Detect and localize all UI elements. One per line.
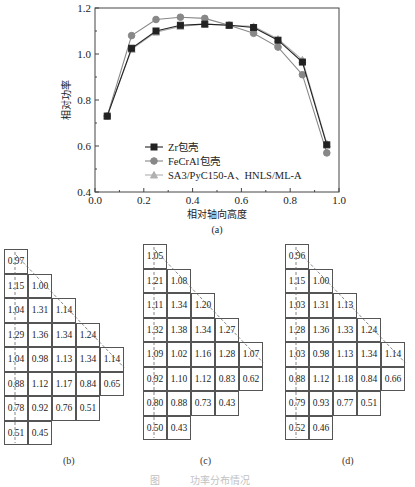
symmetry-lines: [143, 244, 273, 444]
square-marker-icon: [275, 37, 281, 43]
x-tick-label: 0.2: [137, 194, 151, 206]
y-tick-label: 0.8: [77, 94, 91, 106]
legend-label: SA3/PyC150-A、HNLS/ML-A: [168, 170, 302, 181]
square-marker-icon: [129, 45, 135, 51]
symmetry-lines: [285, 244, 415, 444]
figure-caption: 图 功率分布情况: [150, 472, 250, 487]
y-axis-label: 相对功率: [60, 80, 72, 120]
series-0: [104, 21, 330, 148]
y-tick-label: 1.2: [77, 2, 91, 14]
square-marker-icon: [299, 59, 305, 65]
panel-label-d: (d): [342, 455, 354, 466]
y-tick-label: 0.4: [77, 186, 91, 198]
x-tick-label: 0.6: [235, 194, 249, 206]
series-line: [107, 17, 327, 153]
circle-marker-icon: [128, 32, 135, 39]
square-marker-icon: [177, 22, 183, 28]
x-tick-label: 1.0: [332, 194, 346, 206]
line-chart: 0.00.20.40.60.81.00.40.60.81.01.2相对轴向高度相…: [0, 0, 415, 240]
legend-label: Zr包壳: [168, 141, 199, 153]
panel-label-c: (c): [200, 455, 211, 466]
panel-label-a: (a): [211, 224, 222, 236]
circle-marker-icon: [299, 71, 306, 78]
series-1: [104, 14, 330, 156]
series-2: [104, 21, 331, 147]
square-marker-icon: [104, 113, 110, 119]
square-marker-icon: [226, 22, 232, 28]
panel-label-b: (b): [63, 455, 75, 466]
circle-marker-icon: [153, 16, 160, 23]
legend: Zr包壳FeCrAl包壳SA3/PyC150-A、HNLS/ML-A: [145, 141, 302, 181]
square-marker-icon: [151, 144, 157, 150]
square-marker-icon: [324, 142, 330, 148]
y-tick-label: 0.6: [77, 140, 91, 152]
square-marker-icon: [251, 25, 257, 31]
y-tick-label: 1.0: [77, 48, 91, 60]
circle-marker-icon: [177, 14, 184, 21]
series-line: [107, 24, 327, 145]
x-tick-label: 0.4: [186, 194, 200, 206]
square-marker-icon: [202, 21, 208, 27]
symmetry-lines: [4, 249, 134, 449]
x-tick-label: 0.8: [283, 194, 297, 206]
circle-marker-icon: [324, 150, 331, 157]
circle-marker-icon: [151, 158, 158, 165]
legend-label: FeCrAl包壳: [168, 155, 221, 167]
square-marker-icon: [153, 28, 159, 34]
x-axis-label: 相对轴向高度: [187, 208, 247, 220]
circle-marker-icon: [275, 44, 282, 51]
